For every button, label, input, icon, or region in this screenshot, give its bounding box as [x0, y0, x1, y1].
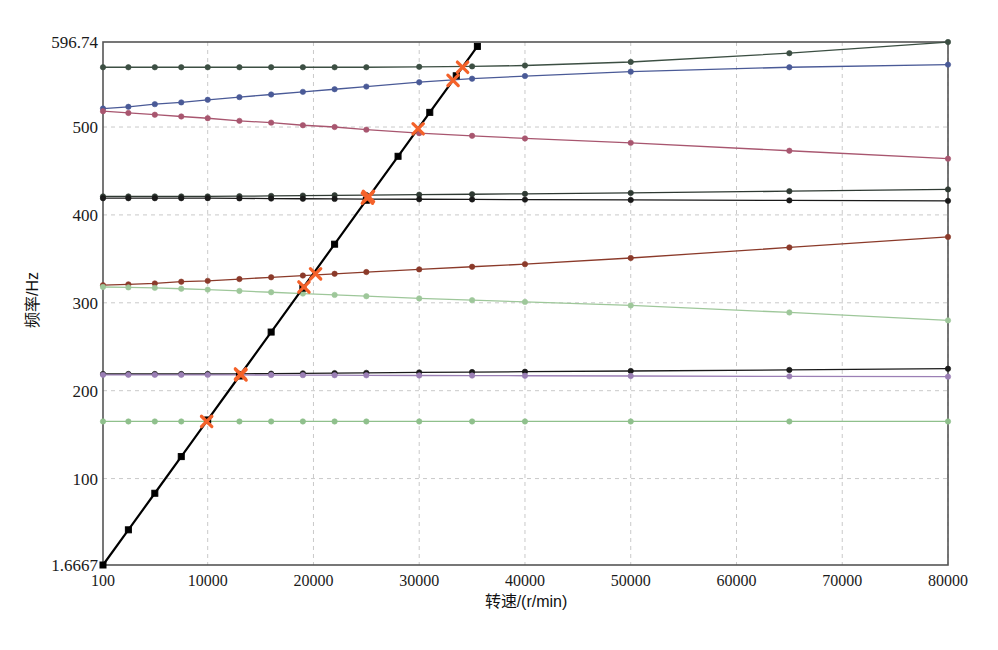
data-point-marker — [787, 419, 792, 424]
x-tick-label: 40000 — [505, 572, 545, 589]
data-point-marker — [628, 69, 633, 74]
data-point-marker — [126, 110, 131, 115]
data-point-marker — [945, 318, 950, 323]
y-axis-title: 频率/Hz — [24, 272, 41, 328]
data-point-marker — [522, 197, 527, 202]
data-point-marker — [364, 294, 369, 299]
chart-canvas: 1001000020000300004000050000600007000080… — [0, 0, 998, 650]
x-tick-label: 30000 — [399, 572, 439, 589]
data-point-marker — [152, 112, 157, 117]
data-point-marker — [945, 234, 950, 239]
data-point-marker — [300, 273, 305, 278]
x-tick-label: 60000 — [716, 572, 756, 589]
data-point-marker — [100, 562, 106, 568]
data-point-marker — [237, 94, 242, 99]
data-point-marker — [945, 187, 950, 192]
data-point-marker — [100, 372, 105, 377]
data-point-marker — [787, 148, 792, 153]
data-point-marker — [237, 196, 242, 201]
data-point-marker — [395, 153, 401, 159]
data-point-marker — [469, 64, 474, 69]
data-point-marker — [787, 65, 792, 70]
data-point-marker — [237, 419, 242, 424]
data-point-marker — [522, 419, 527, 424]
data-point-marker — [417, 80, 422, 85]
data-point-marker — [364, 419, 369, 424]
campbell-diagram-chart: 1001000020000300004000050000600007000080… — [0, 0, 998, 650]
data-point-marker — [945, 156, 950, 161]
data-point-marker — [945, 419, 950, 424]
data-point-marker — [787, 367, 792, 372]
data-point-marker — [237, 288, 242, 293]
data-point-marker — [179, 419, 184, 424]
data-point-marker — [100, 196, 105, 201]
data-point-marker — [268, 120, 273, 125]
data-point-marker — [469, 197, 474, 202]
data-point-marker — [100, 109, 105, 114]
data-point-marker — [787, 198, 792, 203]
data-point-marker — [300, 123, 305, 128]
data-point-marker — [364, 127, 369, 132]
data-point-marker — [427, 109, 433, 115]
data-point-marker — [179, 279, 184, 284]
data-point-marker — [332, 65, 337, 70]
data-point-marker — [628, 59, 633, 64]
data-point-marker — [332, 87, 337, 92]
data-point-marker — [205, 97, 210, 102]
y-tick-label: 100 — [73, 470, 99, 489]
data-point-marker — [945, 198, 950, 203]
data-point-marker — [268, 65, 273, 70]
data-point-marker — [100, 284, 105, 289]
data-point-marker — [205, 278, 210, 283]
data-point-marker — [787, 310, 792, 315]
data-point-marker — [332, 124, 337, 129]
data-point-marker — [417, 296, 422, 301]
y-tick-label: 596.74 — [51, 33, 98, 52]
data-point-marker — [628, 190, 633, 195]
data-point-marker — [522, 63, 527, 68]
data-point-marker — [300, 372, 305, 377]
x-tick-label: 80000 — [928, 572, 968, 589]
data-point-marker — [332, 271, 337, 276]
data-point-marker — [126, 65, 131, 70]
data-point-marker — [300, 65, 305, 70]
data-point-marker — [522, 261, 527, 266]
data-point-marker — [205, 372, 210, 377]
data-point-marker — [100, 419, 105, 424]
data-point-marker — [268, 419, 273, 424]
data-point-marker — [178, 454, 184, 460]
data-point-marker — [152, 196, 157, 201]
data-point-marker — [364, 373, 369, 378]
data-point-marker — [469, 373, 474, 378]
data-point-marker — [126, 285, 131, 290]
data-point-marker — [300, 89, 305, 94]
data-point-marker — [152, 372, 157, 377]
data-point-marker — [469, 76, 474, 81]
data-point-marker — [628, 368, 633, 373]
data-point-marker — [237, 118, 242, 123]
data-point-marker — [300, 419, 305, 424]
data-point-marker — [945, 366, 950, 371]
data-point-marker — [787, 245, 792, 250]
data-point-marker — [522, 191, 527, 196]
data-point-marker — [522, 373, 527, 378]
data-point-marker — [945, 62, 950, 67]
data-point-marker — [469, 297, 474, 302]
data-point-marker — [628, 197, 633, 202]
data-point-marker — [332, 292, 337, 297]
x-tick-label: 70000 — [822, 572, 862, 589]
data-point-marker — [522, 73, 527, 78]
data-point-marker — [364, 65, 369, 70]
data-point-marker — [126, 104, 131, 109]
data-point-marker — [628, 303, 633, 308]
data-point-marker — [332, 241, 338, 247]
data-point-marker — [469, 419, 474, 424]
data-point-marker — [417, 373, 422, 378]
data-point-marker — [300, 196, 305, 201]
data-point-marker — [268, 196, 273, 201]
data-point-marker — [332, 373, 337, 378]
data-point-marker — [179, 65, 184, 70]
data-point-marker — [628, 140, 633, 145]
data-point-marker — [126, 372, 131, 377]
data-point-marker — [787, 374, 792, 379]
